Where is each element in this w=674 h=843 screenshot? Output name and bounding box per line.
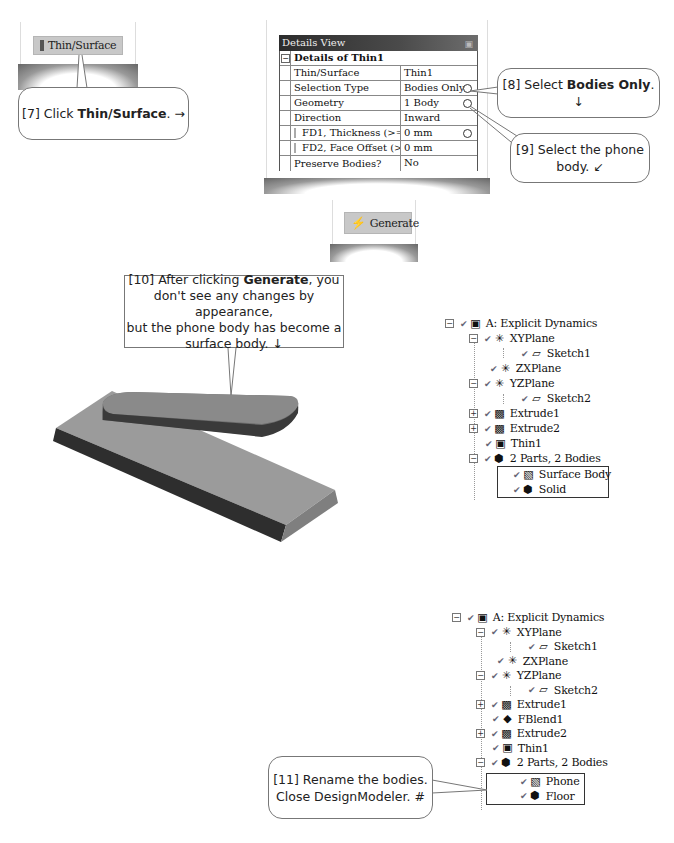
callout-pointer xyxy=(0,0,674,843)
callout-step11: [11] Rename the bodies. Close DesignMode… xyxy=(268,756,433,819)
